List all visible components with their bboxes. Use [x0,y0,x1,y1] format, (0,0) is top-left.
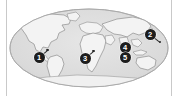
leader-endpoint-3 [92,50,94,52]
map-marker-1[interactable]: 1 [34,52,45,63]
land-new-zealand [160,68,164,73]
map-marker-2[interactable]: 2 [145,29,156,40]
figure-right-rule [171,0,172,96]
map-marker-3[interactable]: 3 [80,53,91,64]
map-marker-4[interactable]: 4 [120,42,131,53]
world-map-graphic [7,0,171,96]
world-map-figure: 12345 [0,0,179,96]
leader-endpoint-1 [46,49,48,51]
map-marker-5[interactable]: 5 [120,52,131,63]
map-stage: 12345 [7,0,171,96]
